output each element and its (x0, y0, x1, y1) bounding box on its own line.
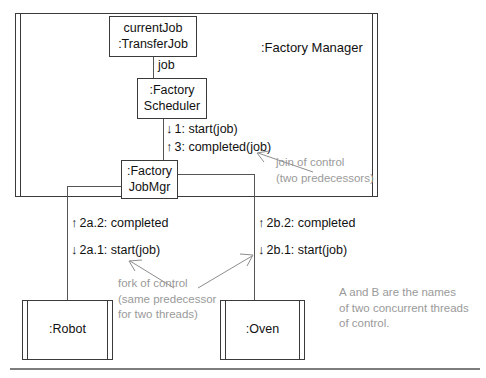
arrow-up-icon: ↑ (166, 140, 173, 153)
link-scheduler-jobmgr (163, 119, 164, 161)
message-1-start-job: ↓ 1: start(job) (166, 122, 238, 136)
object-factory-manager-label: :Factory Manager (261, 40, 363, 56)
link-jobmgr-robot-vertical (67, 186, 68, 300)
object-factory-jobmgr-line2: JobMgr (129, 180, 171, 196)
object-oven[interactable]: :Oven (220, 300, 305, 360)
object-current-job-line1: currentJob (123, 21, 182, 37)
link-currentjob-scheduler (153, 57, 154, 79)
message-2b1-label: 2b.1: start(job) (267, 243, 348, 257)
object-factory-scheduler[interactable]: :Factory Scheduler (137, 78, 207, 119)
arrow-up-icon: ↑ (258, 216, 265, 229)
object-factory-scheduler-line2: Scheduler (144, 99, 200, 115)
message-2a2-label: 2a.2: completed (80, 216, 169, 230)
diagram-canvas: :Factory Manager currentJob :TransferJob… (0, 0, 486, 378)
arrow-up-icon: ↑ (71, 216, 78, 229)
message-2b2-completed: ↑ 2b.2: completed (258, 216, 355, 230)
object-factory-jobmgr[interactable]: :Factory JobMgr (121, 160, 178, 199)
message-2a1-label: 2a.1: start(job) (80, 243, 161, 257)
link-role-job: job (158, 58, 175, 74)
annotation-join-of-control: join of control (two predecessors) (276, 155, 374, 186)
object-robot[interactable]: :Robot (22, 300, 113, 360)
message-1-label: 1: start(job) (175, 122, 238, 136)
arrow-down-icon: ↓ (258, 243, 265, 256)
message-2a2-completed: ↑ 2a.2: completed (71, 216, 168, 230)
object-current-job[interactable]: currentJob :TransferJob (109, 16, 197, 57)
bottom-rule (10, 368, 480, 370)
link-jobmgr-robot-horizontal (67, 186, 122, 187)
object-current-job-line2: :TransferJob (118, 37, 188, 53)
object-factory-scheduler-line1: :Factory (149, 83, 194, 99)
object-factory-jobmgr-line1: :Factory (127, 164, 172, 180)
message-2b2-label: 2b.2: completed (267, 216, 356, 230)
annotation-fork-of-control: fork of control (same predecessor for tw… (118, 276, 216, 323)
arrow-down-icon: ↓ (71, 243, 78, 256)
arrow-down-icon: ↓ (166, 122, 173, 135)
object-robot-label: :Robot (49, 322, 86, 338)
message-2b1-start-job: ↓ 2b.1: start(job) (258, 243, 347, 257)
link-jobmgr-oven-horizontal (178, 174, 255, 175)
annotation-threads-description: A and B are the names of two concurrent … (339, 285, 469, 332)
object-oven-label: :Oven (246, 322, 279, 338)
message-2a1-start-job: ↓ 2a.1: start(job) (71, 243, 160, 257)
